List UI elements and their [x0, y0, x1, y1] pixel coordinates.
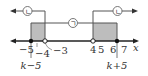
label-k-minus-5: k−5	[21, 60, 42, 71]
circle-label-g: ㄱ	[69, 19, 78, 28]
tick-label-m4: −4	[35, 48, 50, 59]
svg-text:ㄴ: ㄴ	[25, 8, 31, 16]
tick-label-m3: −3	[53, 45, 68, 56]
label-k-plus-5: k+5	[107, 60, 128, 71]
circle-label-n-right: ㄴ	[113, 7, 122, 16]
tick-label-4: 4	[90, 44, 96, 55]
shaded-region-right	[93, 23, 117, 41]
tick-label-6: 6	[110, 44, 116, 55]
number-line-diagram: ㄱ ㄴ ㄴ −5 −4 −3 4 5 6 7 x k−5	[0, 0, 148, 76]
point-k-plus-5	[115, 39, 119, 43]
axis-arrow-left-icon	[10, 39, 16, 44]
point-k-minus-5	[29, 39, 33, 43]
tick-label-m5: −5	[19, 44, 34, 55]
circle-label-n-left: ㄴ	[23, 7, 32, 16]
arrow-left-icon	[10, 9, 16, 14]
tick-label-5: 5	[98, 44, 104, 55]
point-4	[91, 39, 95, 43]
point-m3	[43, 39, 47, 43]
shaded-region-left	[31, 23, 45, 41]
svg-text:ㄴ: ㄴ	[115, 8, 121, 16]
svg-text:ㄱ: ㄱ	[70, 20, 76, 28]
tick-label-7: 7	[121, 44, 127, 55]
axis-label-x: x	[133, 42, 139, 53]
arrow-right-icon	[132, 9, 138, 14]
